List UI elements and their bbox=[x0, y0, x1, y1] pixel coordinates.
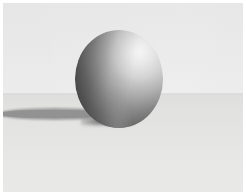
sphere bbox=[75, 30, 163, 128]
photo-frame bbox=[0, 0, 246, 195]
sphere-specular-highlight bbox=[75, 30, 163, 128]
rendered-scene bbox=[3, 3, 243, 192]
